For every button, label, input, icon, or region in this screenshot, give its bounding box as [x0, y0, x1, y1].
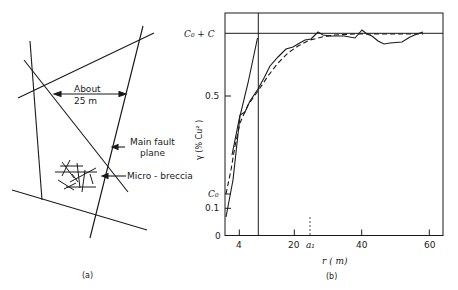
- x-tick-4: 4: [236, 240, 242, 250]
- panel-a-caption: (a): [82, 271, 93, 280]
- y-label-c0-plus-c: C₀ + C: [184, 29, 215, 39]
- main-fault-label: Main fault: [130, 137, 175, 147]
- y-tick-0: 0: [215, 231, 221, 241]
- chart-frame: [225, 13, 443, 236]
- plane-label: plane: [140, 148, 165, 158]
- y-label-c0: C₀: [208, 189, 219, 199]
- panel-a-diagram: [12, 26, 154, 238]
- micro-breccia-label: Micro - breccia: [127, 171, 193, 181]
- x-tick-40: 40: [356, 240, 368, 250]
- experimental-variogram-line: [232, 30, 423, 155]
- x-tick-60: 60: [424, 240, 436, 250]
- about-label: About: [74, 84, 101, 94]
- arrowhead-left-icon: [54, 92, 61, 97]
- distance-label: 25 m: [74, 96, 97, 106]
- y-tick-0-5: 0.5: [205, 91, 219, 101]
- x-axis-title: r ( m): [322, 256, 348, 266]
- x-tick-20: 20: [288, 240, 300, 250]
- y-tick-0-1: 0.1: [205, 203, 219, 213]
- y-axis-title: γ (% Cu² ): [195, 120, 204, 160]
- arrowhead-micro-breccia-icon: [102, 174, 108, 179]
- range-marker-label: a₁: [306, 240, 315, 250]
- fault-line-bottom: [12, 190, 147, 230]
- fitted-model-line: [226, 34, 423, 194]
- micro-breccia-hatch-icon: [55, 160, 97, 192]
- arrowhead-right-icon: [119, 92, 126, 97]
- fault-line-left: [30, 41, 42, 200]
- main-fault-plane-line: [90, 26, 143, 238]
- tangent-line: [226, 38, 258, 217]
- panel-b-caption: (b): [326, 272, 337, 281]
